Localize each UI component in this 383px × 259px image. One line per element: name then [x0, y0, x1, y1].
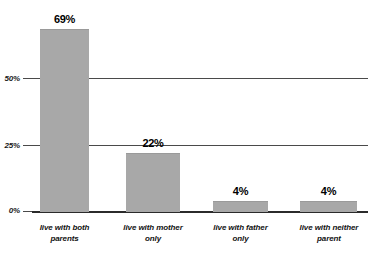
category-label-line-2: parent: [282, 233, 376, 244]
category-label-live-with-mother-only: live with mother only: [108, 222, 198, 244]
category-label-line-1: live with both: [21, 222, 108, 233]
plot-area: 50% 25% 0% 69% 22% 4% 4%: [0, 0, 383, 215]
tick-stub-50: [23, 78, 32, 79]
category-label-line-1: live with neither: [282, 222, 376, 233]
bar-live-with-neither-parent: [300, 201, 357, 212]
category-label-line-2: parents: [21, 233, 108, 244]
ytick-label-25: 25%: [0, 141, 20, 150]
bar-value-live-with-neither-parent: 4%: [300, 185, 357, 197]
bar-live-with-mother-only: [126, 153, 180, 212]
category-label-line-2: only: [108, 233, 198, 244]
bar-value-live-with-mother-only: 22%: [126, 137, 180, 149]
bar-live-with-both-parents: [40, 29, 89, 212]
bar-value-live-with-father-only: 4%: [213, 185, 268, 197]
tick-stub-0: [23, 211, 32, 212]
category-label-line-1: live with father: [196, 222, 285, 233]
category-label-live-with-father-only: live with father only: [196, 222, 285, 244]
bar-value-live-with-both-parents: 69%: [40, 13, 89, 25]
bar-live-with-father-only: [213, 201, 268, 212]
bar-chart: 50% 25% 0% 69% 22% 4% 4% live with both …: [0, 0, 383, 259]
category-label-live-with-neither-parent: live with neither parent: [282, 222, 376, 244]
category-label-line-2: only: [196, 233, 285, 244]
category-label-line-1: live with mother: [108, 222, 198, 233]
category-label-live-with-both-parents: live with both parents: [21, 222, 108, 244]
ytick-label-0: 0%: [0, 206, 20, 215]
tick-stub-25: [23, 145, 32, 146]
ytick-label-50: 50%: [0, 74, 20, 83]
